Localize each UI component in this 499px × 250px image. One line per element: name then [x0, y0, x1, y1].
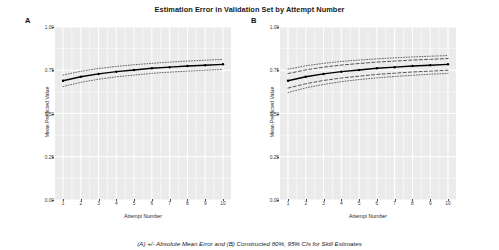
y-tick-mark [277, 200, 279, 201]
x-axis-title-b: Attempt Number [280, 213, 456, 219]
x-tick-label: 9 [204, 201, 207, 206]
figure-title: Estimation Error in Validation Set by At… [0, 5, 499, 14]
x-tick-label: 9 [429, 201, 432, 206]
series-point [305, 76, 307, 78]
y-tick-label: 0.25 [24, 154, 54, 159]
x-tick-mark [63, 199, 64, 201]
x-tick-mark [116, 199, 117, 201]
plot-svg-a [55, 27, 231, 200]
x-tick-label: 3 [97, 201, 100, 206]
x-tick-label: 7 [168, 201, 171, 206]
x-tick-label: 3 [322, 201, 325, 206]
figure-caption: (A) +/- Absolute Mean Error and (B) Cons… [0, 240, 499, 247]
x-tick-mark [412, 199, 413, 201]
y-tick-label: 0.25 [249, 154, 279, 159]
series-point [394, 66, 396, 68]
x-tick-mark [187, 199, 188, 201]
y-tick-label: 0.50 [249, 111, 279, 116]
x-tick-label: 4 [340, 201, 343, 206]
x-tick-mark [205, 199, 206, 201]
x-tick-label: 1 [62, 201, 65, 206]
series-point [429, 64, 431, 66]
x-tick-label: 10 [445, 201, 450, 206]
x-tick-label: 8 [411, 201, 414, 206]
x-axis-ticklabels-b: 12345678910 [280, 201, 456, 209]
x-tick-label: 8 [186, 201, 189, 206]
y-tick-mark [52, 70, 54, 71]
series-point [169, 66, 171, 68]
x-tick-mark [341, 199, 342, 201]
y-axis-ticklabels-b: 0.000.250.500.751.00 [247, 27, 279, 200]
x-tick-label: 5 [358, 201, 361, 206]
series-point [322, 73, 324, 75]
series-point [186, 65, 188, 67]
plot-area-a [55, 27, 231, 200]
x-tick-mark [99, 199, 100, 201]
y-tick-label: 1.00 [24, 25, 54, 30]
series-point [204, 64, 206, 66]
series-point [62, 80, 64, 82]
y-tick-label: 0.75 [24, 68, 54, 73]
y-tick-label: 1.00 [249, 25, 279, 30]
y-tick-mark [52, 114, 54, 115]
x-tick-mark [152, 199, 153, 201]
series-point [133, 69, 135, 71]
x-tick-mark [448, 199, 449, 201]
series-point [97, 73, 99, 75]
series-point [222, 63, 224, 65]
y-tick-mark [52, 200, 54, 201]
y-axis-ticklabels-a: 0.000.250.500.751.00 [22, 27, 54, 200]
series-point [411, 65, 413, 67]
y-tick-label: 0.00 [24, 198, 54, 203]
x-tick-label: 4 [115, 201, 118, 206]
x-tick-mark [359, 199, 360, 201]
x-tick-label: 6 [151, 201, 154, 206]
x-tick-mark [81, 199, 82, 201]
y-tick-mark [277, 70, 279, 71]
y-tick-mark [277, 157, 279, 158]
y-tick-label: 0.00 [249, 198, 279, 203]
x-tick-mark [324, 199, 325, 201]
x-tick-label: 2 [79, 201, 82, 206]
x-tick-mark [395, 199, 396, 201]
y-tick-mark [52, 27, 54, 28]
y-tick-label: 0.50 [24, 111, 54, 116]
x-tick-label: 10 [220, 201, 225, 206]
series-point [115, 70, 117, 72]
plot-area-b [280, 27, 456, 200]
y-tick-mark [277, 27, 279, 28]
series-point [447, 63, 449, 65]
series-point [151, 67, 153, 69]
subplot-a: Mean Predicted Value 0.000.250.500.751.0… [22, 22, 234, 222]
x-tick-mark [134, 199, 135, 201]
x-tick-mark [170, 199, 171, 201]
series-point [287, 80, 289, 82]
series-point [358, 69, 360, 71]
figure-root: Estimation Error in Validation Set by At… [0, 0, 499, 250]
x-tick-mark [430, 199, 431, 201]
x-tick-label: 7 [393, 201, 396, 206]
x-tick-label: 5 [133, 201, 136, 206]
x-tick-mark [377, 199, 378, 201]
x-tick-mark [288, 199, 289, 201]
y-tick-mark [52, 157, 54, 158]
x-axis-title-a: Attempt Number [55, 213, 231, 219]
series-point [340, 70, 342, 72]
subplot-b: Mean Predicted Value 0.000.250.500.751.0… [247, 22, 459, 222]
series-point [80, 76, 82, 78]
x-tick-label: 1 [287, 201, 290, 206]
y-tick-label: 0.75 [249, 68, 279, 73]
plot-svg-b [280, 27, 456, 200]
y-tick-mark [277, 114, 279, 115]
x-tick-label: 2 [304, 201, 307, 206]
x-tick-mark [306, 199, 307, 201]
series-point [376, 67, 378, 69]
x-tick-mark [223, 199, 224, 201]
x-tick-label: 6 [376, 201, 379, 206]
x-axis-ticklabels-a: 12345678910 [55, 201, 231, 209]
